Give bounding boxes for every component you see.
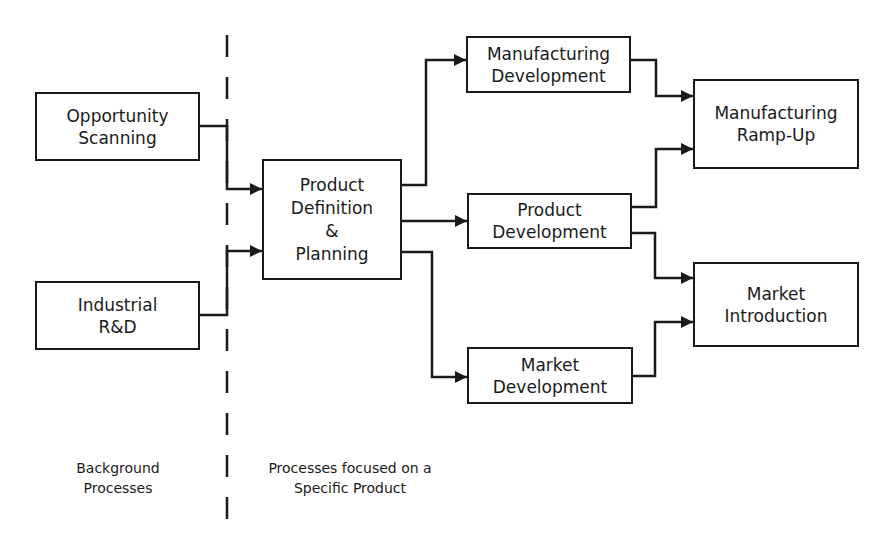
node-market-introduction: Market Introduction [693, 262, 859, 347]
node-label: Product Definition & Planning [291, 174, 373, 266]
node-industrial-rd: Industrial R&D [35, 281, 200, 350]
edge-industrial-to-definition [199, 251, 262, 315]
node-label: Opportunity Scanning [66, 105, 168, 149]
node-market-development: Market Development [467, 347, 633, 404]
edge-product-dev-to-rampup [631, 149, 693, 207]
node-manufacturing-development: Manufacturing Development [466, 36, 631, 93]
edge-mfg-dev-to-rampup [630, 60, 693, 96]
node-product-definition: Product Definition & Planning [262, 159, 402, 280]
node-label: Industrial R&D [78, 294, 158, 338]
edge-opportunity-to-definition [199, 126, 262, 189]
node-label: Market Development [493, 354, 607, 398]
edge-product-dev-to-market-intro [631, 233, 693, 278]
edge-definition-to-market-dev [401, 252, 467, 377]
node-product-development: Product Development [467, 193, 632, 249]
section-label-product: Processes focused on a Specific Product [240, 458, 460, 498]
edge-definition-to-mfg-dev [401, 60, 466, 185]
node-label: Manufacturing Ramp-Up [714, 102, 837, 146]
section-label-background: Background Processes [50, 458, 186, 498]
node-manufacturing-rampup: Manufacturing Ramp-Up [693, 79, 859, 169]
node-opportunity-scanning: Opportunity Scanning [35, 92, 200, 161]
node-label: Market Introduction [725, 283, 828, 327]
node-label: Manufacturing Development [487, 43, 610, 87]
node-label: Product Development [492, 199, 606, 243]
edge-market-dev-to-market-intro [632, 322, 693, 376]
